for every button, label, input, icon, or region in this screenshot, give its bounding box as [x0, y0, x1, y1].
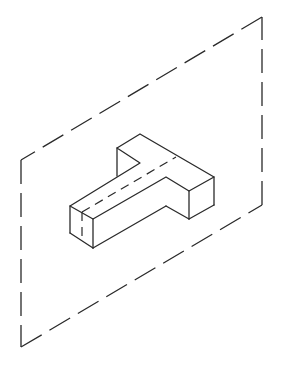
t-block-hidden-center-line [82, 157, 176, 212]
isometric-drawing [0, 0, 286, 366]
t-block [70, 134, 214, 248]
plane-bottom-edge [21, 205, 262, 347]
projection-plane [21, 17, 262, 347]
t-block-top-face-outline [70, 134, 214, 219]
t-block-step-bottom-edge [166, 206, 189, 219]
plane-top-edge [21, 17, 262, 160]
t-block-right-bottom-edge [189, 205, 214, 219]
